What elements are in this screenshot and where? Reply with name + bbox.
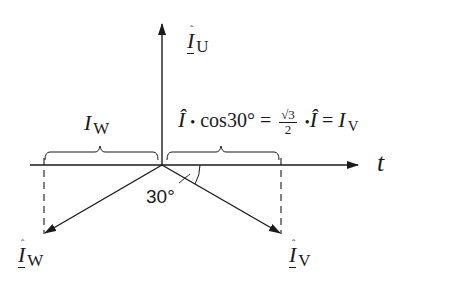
phasor-w-subscript: W — [27, 251, 43, 270]
formula-result-subscript: V — [348, 118, 359, 134]
hat-mark-icon: ˆ — [21, 239, 24, 249]
i-hat-symbol: ˆI — [18, 244, 25, 268]
phasor-w-arrow — [45, 165, 162, 233]
fraction-denominator: 2 — [279, 123, 297, 137]
projection-w-subscript: W — [93, 119, 109, 138]
fraction-numerator: √3 — [279, 108, 297, 123]
brace-v — [167, 146, 279, 160]
formula-i-hat-2: Î — [310, 107, 317, 132]
formula-i-hat: Î — [178, 107, 185, 132]
projection-v-formula: Î • cos30° = √3 2 •Î = IV — [178, 108, 359, 136]
phasor-v-arrow — [162, 165, 280, 233]
formula-equals-2: = — [322, 109, 333, 131]
phasor-u-label: ˆIU — [187, 30, 209, 55]
formula-dot-1: • — [190, 115, 195, 130]
time-axis-label: t — [377, 150, 384, 176]
projection-w-label: IW — [84, 112, 109, 137]
hat-mark-icon: ˆ — [190, 25, 193, 35]
formula-equals-1: = — [260, 109, 271, 131]
formula-result-symbol: I — [338, 107, 345, 132]
phasor-u-subscript: U — [196, 37, 208, 56]
i-hat-symbol: ˆI — [187, 30, 194, 54]
phasor-v-label: ˆIV — [289, 244, 311, 269]
hat-mark-icon: ˆ — [292, 239, 295, 249]
angle-label: 30° — [146, 187, 175, 206]
projection-w-symbol: I — [84, 112, 91, 134]
phasor-w-label: ˆIW — [18, 244, 43, 269]
angle-arc — [195, 165, 200, 184]
phasor-diagram-graphics — [0, 0, 457, 292]
formula-cos: cos30° — [200, 109, 255, 131]
brace-w — [45, 146, 158, 160]
formula-fraction: √3 2 — [279, 108, 297, 136]
phasor-v-subscript: V — [298, 251, 310, 270]
i-hat-symbol: ˆI — [289, 244, 296, 268]
